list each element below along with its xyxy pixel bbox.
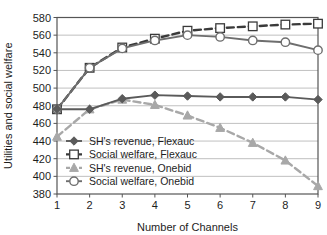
y-tick-label-480: 480 (33, 100, 51, 112)
data-point-x5 (183, 111, 192, 119)
circle-marker-icon (70, 177, 78, 185)
x-tick-label-5: 5 (184, 199, 190, 211)
x-axis: 123456789 (54, 194, 321, 211)
chart-container: 3804004204404604805005205405605801234567… (0, 0, 327, 235)
legend-label-1: Social welfare, Flexauc (89, 148, 197, 160)
data-point-x9 (314, 19, 323, 28)
y-tick-label-560: 560 (33, 29, 51, 41)
y-tick-label-440: 440 (33, 135, 51, 147)
y-tick-label-400: 400 (33, 170, 51, 182)
data-point-x5 (183, 92, 191, 100)
data-point-x9 (314, 46, 322, 54)
y-tick-label-420: 420 (33, 153, 51, 165)
x-tick-label-4: 4 (152, 199, 158, 211)
legend-item-2[interactable]: SH's revenue, Onebid (66, 162, 192, 174)
x-tick-label-7: 7 (250, 199, 256, 211)
x-tick-label-1: 1 (54, 199, 60, 211)
legend-label-3: Social welfare, Onebid (89, 175, 194, 187)
y-tick-label-540: 540 (33, 47, 51, 59)
data-point-x3 (118, 44, 126, 52)
legend-label-2: SH's revenue, Onebid (89, 162, 192, 174)
data-point-x8 (281, 93, 289, 101)
x-tick-label-3: 3 (119, 199, 125, 211)
x-tick-label-2: 2 (87, 199, 93, 211)
data-point-x2 (85, 64, 93, 72)
data-point-x6 (216, 24, 225, 33)
y-tick-label-500: 500 (33, 82, 51, 94)
triangle-marker-icon (70, 163, 79, 171)
utilities-social-welfare-line-chart: 3804004204404604805005205405605801234567… (0, 0, 327, 235)
y-tick-label-460: 460 (33, 117, 51, 129)
x-tick-label-6: 6 (217, 199, 223, 211)
square-marker-icon (70, 150, 79, 159)
data-point-x9 (314, 95, 322, 103)
data-point-x5 (183, 31, 191, 39)
data-point-x4 (151, 91, 159, 99)
data-point-x6 (216, 93, 224, 101)
data-point-x7 (249, 36, 257, 44)
y-tick-label-380: 380 (33, 188, 51, 200)
chart-legend: SH's revenue, FlexaucSocial welfare, Fle… (66, 135, 197, 187)
diamond-marker-icon (70, 137, 78, 145)
data-point-x8 (281, 38, 289, 46)
data-point-x7 (249, 93, 257, 101)
data-point-x7 (248, 22, 257, 31)
y-tick-label-580: 580 (33, 12, 51, 24)
x-tick-label-8: 8 (282, 199, 288, 211)
y-axis-title: Utilities and social welfare (2, 42, 14, 169)
x-axis-title: Number of Channels (137, 221, 238, 233)
legend-label-0: SH's revenue, Flexauc (89, 135, 194, 147)
y-tick-label-520: 520 (33, 64, 51, 76)
data-point-x4 (151, 36, 159, 44)
x-tick-label-9: 9 (315, 199, 321, 211)
data-point-x6 (216, 33, 224, 41)
data-point-x8 (281, 20, 290, 29)
